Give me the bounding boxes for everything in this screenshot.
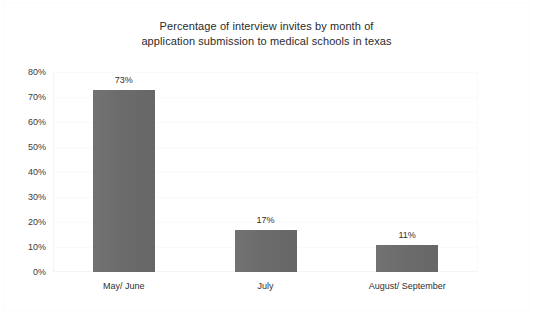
- bar-value-label: 17%: [256, 215, 274, 225]
- bar-value-label: 73%: [115, 75, 133, 85]
- plot-area: 73%17%11%: [53, 72, 478, 272]
- chart-title: Percentage of interview invites by month…: [0, 19, 533, 48]
- y-axis-tick-label: 60%: [2, 117, 46, 127]
- bar-july[interactable]: [235, 230, 297, 273]
- gridline: [53, 72, 478, 73]
- y-axis-tick-label: 50%: [2, 142, 46, 152]
- bar-august-september[interactable]: [376, 245, 438, 273]
- y-axis-tick-label: 70%: [2, 92, 46, 102]
- bar-may-june[interactable]: [93, 90, 155, 273]
- y-axis-tick-label: 0%: [2, 267, 46, 277]
- y-axis-tick-labels: 0%10%20%30%40%50%60%70%80%: [0, 72, 46, 272]
- y-axis-tick-label: 30%: [2, 192, 46, 202]
- bar-chart-figure: Percentage of interview invites by month…: [0, 0, 533, 314]
- y-axis-tick-label: 40%: [2, 167, 46, 177]
- x-axis-category-label: July: [257, 281, 273, 291]
- y-axis-tick-label: 10%: [2, 242, 46, 252]
- x-axis-category-label: May/ June: [103, 281, 145, 291]
- y-axis-tick-label: 20%: [2, 217, 46, 227]
- x-axis-category-label: August/ September: [369, 281, 446, 291]
- y-axis-tick-label: 80%: [2, 67, 46, 77]
- bar-value-label: 11%: [398, 230, 415, 240]
